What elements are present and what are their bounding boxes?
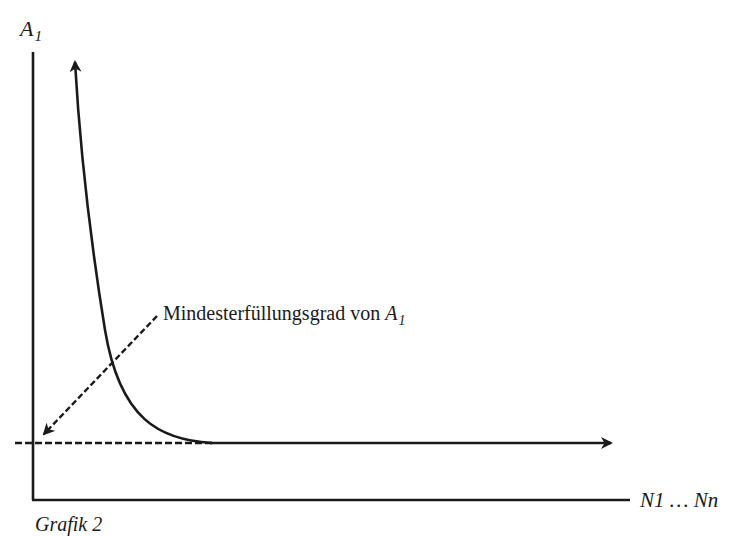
annotation-text: Mindesterfüllungsgrad von [163,302,385,324]
annotation-var-sub: 1 [398,313,405,328]
figure-caption: Grafik 2 [35,513,102,536]
annotation-label: Mindesterfüllungsgrad von A1 [163,302,405,329]
y-axis-label-main: A [20,16,33,41]
x-axis-label: N1 … Nn [640,488,718,513]
y-axis-label-sub: 1 [34,27,42,44]
y-axis-label: A1 [20,16,42,45]
indifference-curve [75,62,212,443]
annotation-var-main: A [385,302,397,324]
